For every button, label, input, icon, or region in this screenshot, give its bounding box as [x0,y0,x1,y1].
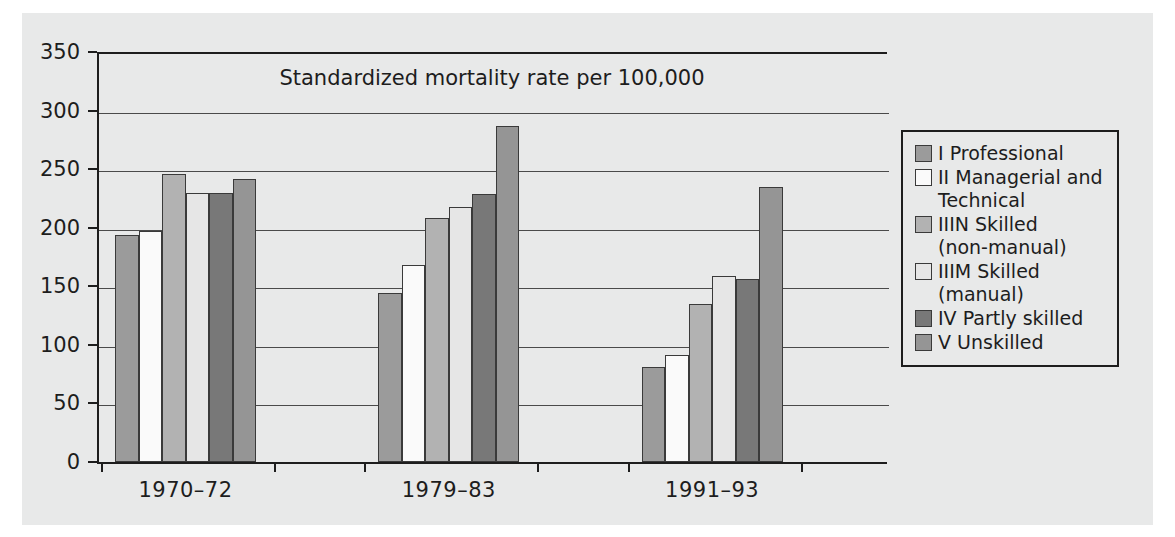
y-tick-mark [88,344,97,346]
legend-label: IIIN Skilled (non-manual) [938,213,1067,259]
legend-swatch-icon [915,216,932,233]
legend-label: I Professional [938,142,1064,165]
x-tick-mark [274,462,276,472]
legend-item: IV Partly skilled [915,307,1109,330]
bar [425,218,449,462]
legend-item: V Unskilled [915,331,1109,354]
y-tick-label: 350 [18,42,80,63]
bar [186,193,210,462]
chart-legend: I ProfessionalII Managerial and Technica… [901,130,1119,367]
x-tick-label: 1979–83 [349,478,549,502]
bar [209,193,233,462]
legend-label: IV Partly skilled [938,307,1083,330]
y-tick-mark [88,110,97,112]
bar [139,231,163,462]
legend-item: IIIM Skilled (manual) [915,260,1109,306]
y-tick-label: 0 [18,452,80,473]
bar [402,265,426,462]
bar [162,174,186,462]
bar [115,235,139,462]
x-axis-line [97,462,887,464]
x-tick-label: 1970–72 [86,478,286,502]
legend-item: I Professional [915,142,1109,165]
bar [736,279,760,462]
bar [642,367,666,462]
y-tick-label: 150 [18,276,80,297]
y-tick-mark [88,461,97,463]
bar [449,207,473,462]
legend-swatch-icon [915,310,932,327]
bar [689,304,713,462]
y-tick-label: 300 [18,100,80,121]
x-tick-mark [101,462,103,472]
bar [496,126,520,462]
y-tick-label: 50 [18,393,80,414]
bar [665,355,689,462]
x-tick-label: 1991–93 [612,478,812,502]
bar [712,276,736,462]
legend-swatch-icon [915,263,932,280]
legend-swatch-icon [915,169,932,186]
bars-layer [97,52,887,462]
y-axis-labels: 050100150200250300350 [18,0,80,537]
x-tick-mark [628,462,630,472]
y-tick-mark [88,285,97,287]
chart-page: 050100150200250300350 Standardized morta… [0,0,1175,537]
bar [378,293,402,462]
bar [233,179,257,462]
y-tick-mark [88,168,97,170]
legend-item: II Managerial and Technical [915,166,1109,212]
x-tick-mark [537,462,539,472]
bar [759,187,783,462]
legend-swatch-icon [915,334,932,351]
y-tick-label: 200 [18,217,80,238]
legend-item: IIIN Skilled (non-manual) [915,213,1109,259]
legend-swatch-icon [915,145,932,162]
legend-label: V Unskilled [938,331,1043,354]
y-tick-mark [88,402,97,404]
x-tick-mark [801,462,803,472]
bar [472,194,496,462]
legend-label: IIIM Skilled (manual) [938,260,1040,306]
x-tick-mark [364,462,366,472]
y-tick-mark [88,227,97,229]
legend-label: II Managerial and Technical [938,166,1103,212]
y-tick-label: 250 [18,159,80,180]
y-tick-label: 100 [18,334,80,355]
y-tick-mark [88,51,97,53]
